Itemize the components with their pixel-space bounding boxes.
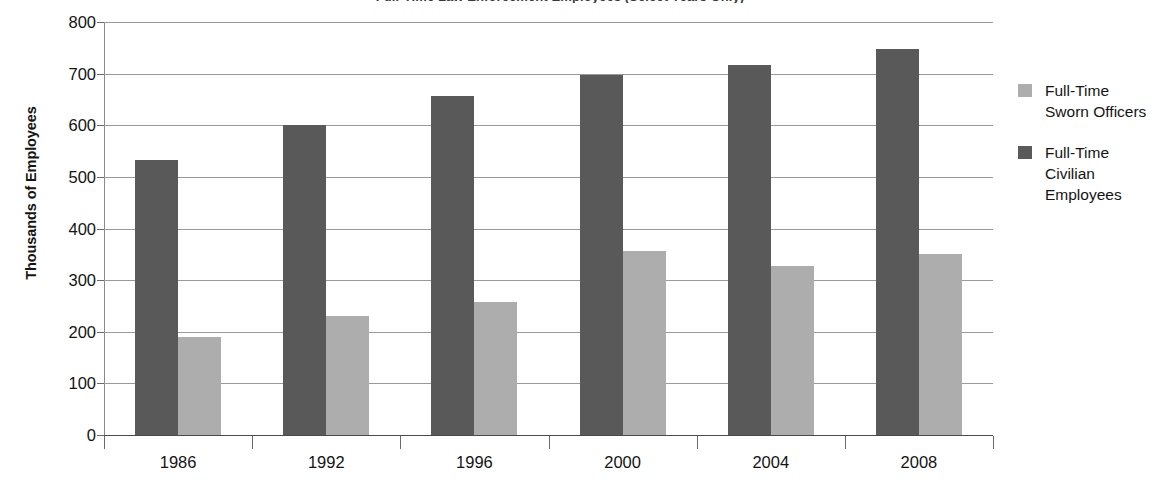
y-axis-tick (97, 332, 104, 333)
x-axis-label-1986: 1986 (118, 453, 238, 472)
y-axis-tick-labels: 0100200300400500600700800 (34, 22, 96, 436)
chart-legend: Full-Time Sworn Officers Full-Time Civil… (1018, 80, 1168, 225)
x-axis-label-1996: 1996 (414, 453, 534, 472)
bar-sworn-officers-1992 (326, 316, 369, 435)
bar-civilian-employees-2000 (580, 75, 623, 435)
y-axis-tick-label: 700 (34, 65, 96, 82)
y-axis-tick-label: 200 (34, 324, 96, 341)
y-axis-tick-label: 100 (34, 375, 96, 392)
x-axis-label-2008: 2008 (859, 453, 979, 472)
y-axis-tick-label: 600 (34, 117, 96, 134)
legend-label-line: Sworn Officers (1045, 101, 1168, 122)
bar-group-container (104, 22, 993, 435)
legend-label-line: Full-Time (1045, 142, 1168, 163)
x-axis-label-1992: 1992 (266, 453, 386, 472)
bar-civilian-employees-2004 (728, 65, 771, 435)
y-axis-tick (97, 125, 104, 126)
legend-swatch-icon-civilian-employees (1018, 146, 1032, 159)
x-axis-tick (697, 436, 698, 449)
legend-label-line: Full-Time (1045, 80, 1168, 101)
x-axis-label-2004: 2004 (711, 453, 831, 472)
y-axis-tick-label: 300 (34, 272, 96, 289)
y-axis-tick (97, 22, 104, 23)
bar-sworn-officers-1986 (178, 337, 221, 435)
legend-item-civilian-employees[interactable]: Full-Time Civilian Employees (1018, 142, 1168, 205)
y-axis-tick-label: 500 (34, 169, 96, 186)
y-axis-tick (97, 229, 104, 230)
bar-sworn-officers-2004 (771, 266, 814, 435)
bar-civilian-employees-1996 (431, 96, 474, 435)
plot-area (104, 22, 993, 436)
legend-label-line: Employees (1045, 184, 1168, 205)
y-axis-tick-label: 800 (34, 14, 96, 31)
x-axis-tick (845, 436, 846, 449)
y-axis-tick-label: 400 (34, 220, 96, 237)
x-axis: 198619921996200020042008 (104, 436, 993, 490)
bar-chart-figure: Full-Time Law Enforcement Employees (Sel… (0, 0, 1173, 490)
bar-civilian-employees-2008 (876, 49, 919, 435)
x-axis-tick (993, 436, 994, 449)
y-axis-tick-label: 0 (34, 427, 96, 444)
y-axis-tick (97, 74, 104, 75)
chart-title: Full-Time Law Enforcement Employees (Sel… (300, 0, 820, 3)
legend-swatch-icon-sworn-officers (1018, 84, 1032, 97)
bar-civilian-employees-1986 (135, 160, 178, 435)
legend-label-line: Civilian (1045, 163, 1168, 184)
y-axis-tick (97, 280, 104, 281)
x-axis-tick (400, 436, 401, 449)
bar-sworn-officers-2000 (623, 251, 666, 435)
y-axis-tick (97, 383, 104, 384)
bar-sworn-officers-1996 (474, 302, 517, 435)
y-axis-tick (97, 435, 104, 436)
x-axis-tick (549, 436, 550, 449)
bar-civilian-employees-1992 (283, 125, 326, 435)
x-axis-tick (104, 436, 105, 449)
bar-sworn-officers-2008 (919, 254, 962, 435)
y-axis-tick (97, 177, 104, 178)
x-axis-label-2000: 2000 (563, 453, 683, 472)
x-axis-tick (252, 436, 253, 449)
legend-item-sworn-officers[interactable]: Full-Time Sworn Officers (1018, 80, 1168, 122)
